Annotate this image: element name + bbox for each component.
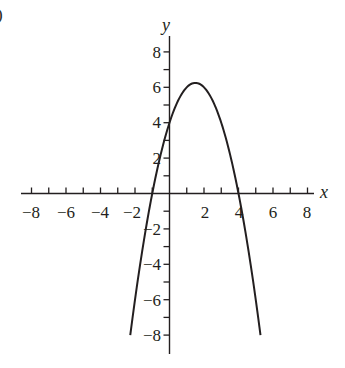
y-tick-label: −4 [143,255,162,274]
panel-label: ) [0,5,3,24]
y-tick-label: −6 [143,291,161,310]
x-tick-label: −4 [91,203,110,222]
y-axis: y [160,15,170,354]
y-tick-label: 4 [153,113,162,132]
y-tick-label: 6 [153,78,162,97]
x-axis-label: x [319,182,328,202]
parabola-plot: ) x y −8 −6 −4 −2 2 4 6 8 8 6 4 2 [0,0,345,368]
x-tick-label: 2 [201,203,210,222]
x-tick-label: −6 [57,203,75,222]
x-axis: x [21,182,328,202]
x-tick-label: −8 [22,203,40,222]
x-tick-label: 8 [303,203,312,222]
chart-figure: ) x y −8 −6 −4 −2 2 4 6 8 8 6 4 2 [0,0,345,368]
x-tick-label: 6 [269,203,278,222]
x-tick-label: −2 [123,203,141,222]
y-axis-label: y [160,15,170,35]
x-tick-labels: −8 −6 −4 −2 2 4 6 8 [22,203,311,222]
y-tick-label: 8 [153,43,162,62]
y-tick-label: −8 [143,326,161,345]
